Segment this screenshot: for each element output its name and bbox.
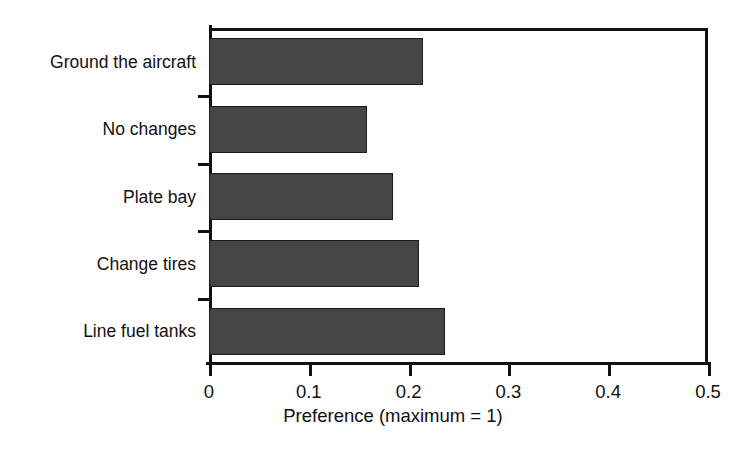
value-tick xyxy=(608,365,611,376)
bar-row xyxy=(209,38,708,85)
value-tick-label: 0.5 xyxy=(695,381,721,403)
value-tick xyxy=(508,365,511,376)
bar-row xyxy=(209,173,708,220)
bar xyxy=(209,308,445,355)
value-axis-line xyxy=(206,362,711,365)
value-tick xyxy=(708,365,711,376)
x-axis-title-text: Preference (maximum = 1) xyxy=(243,405,503,427)
category-tick xyxy=(198,298,209,301)
value-tick-label: 0.2 xyxy=(396,381,422,403)
value-tick-label: 0.4 xyxy=(595,381,621,403)
bar xyxy=(209,173,393,220)
bar xyxy=(209,240,419,287)
category-tick xyxy=(198,230,209,233)
category-tick xyxy=(198,95,209,98)
value-tick xyxy=(209,365,212,376)
plot-frame-top xyxy=(209,28,708,31)
bar-row xyxy=(209,308,708,355)
category-label: Change tires xyxy=(0,254,196,275)
bar-row xyxy=(209,240,708,287)
value-tick-label: 0.1 xyxy=(296,381,322,403)
value-tick-label: 0.3 xyxy=(496,381,522,403)
value-tick xyxy=(309,365,312,376)
plot-area xyxy=(209,28,708,365)
bar xyxy=(209,38,423,85)
category-label: Plate bay xyxy=(0,187,196,208)
bar-chart: Ground the aircraftNo changesPlate bayCh… xyxy=(0,0,746,450)
value-tick-label: 0 xyxy=(204,381,214,403)
bar-row xyxy=(209,106,708,153)
category-label: Ground the aircraft xyxy=(0,52,196,73)
category-label: No changes xyxy=(0,119,196,140)
category-tick xyxy=(198,163,209,166)
value-tick xyxy=(409,365,412,376)
x-axis-title: Preference (maximum = 1) xyxy=(0,405,746,427)
bar xyxy=(209,106,367,153)
category-label: Line fuel tanks xyxy=(0,321,196,342)
